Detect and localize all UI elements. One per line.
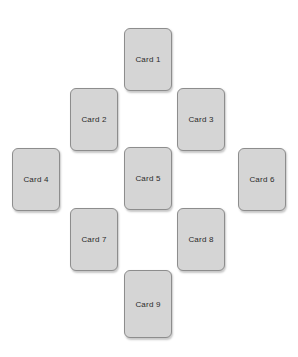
- card[interactable]: Card 8: [177, 208, 225, 271]
- card-label: Card 3: [188, 115, 213, 124]
- card[interactable]: Card 6: [238, 148, 286, 211]
- card[interactable]: Card 9: [124, 270, 172, 338]
- card[interactable]: Card 7: [70, 208, 118, 271]
- card-label: Card 6: [249, 175, 274, 184]
- card-spread-canvas: ··· ··· ······ ·· ·· ···· Card 1Card 2Ca…: [0, 0, 298, 357]
- card[interactable]: Card 3: [177, 88, 225, 151]
- card[interactable]: Card 1: [124, 28, 172, 91]
- card-label: Card 7: [81, 235, 106, 244]
- clipped-header-strip: ··· ··· ······ ·· ·· ····: [0, 0, 298, 7]
- card-label: Card 1: [135, 55, 160, 64]
- card[interactable]: Card 4: [12, 148, 60, 211]
- card-label: Card 8: [188, 235, 213, 244]
- card-label: Card 9: [135, 300, 160, 309]
- card-label: Card 4: [23, 175, 48, 184]
- card-label: Card 2: [81, 115, 106, 124]
- card[interactable]: Card 2: [70, 88, 118, 151]
- card-label: Card 5: [135, 174, 160, 183]
- clipped-header-text: ··· ··· ······ ·· ·· ····: [112, 0, 186, 4]
- card[interactable]: Card 5: [124, 147, 172, 210]
